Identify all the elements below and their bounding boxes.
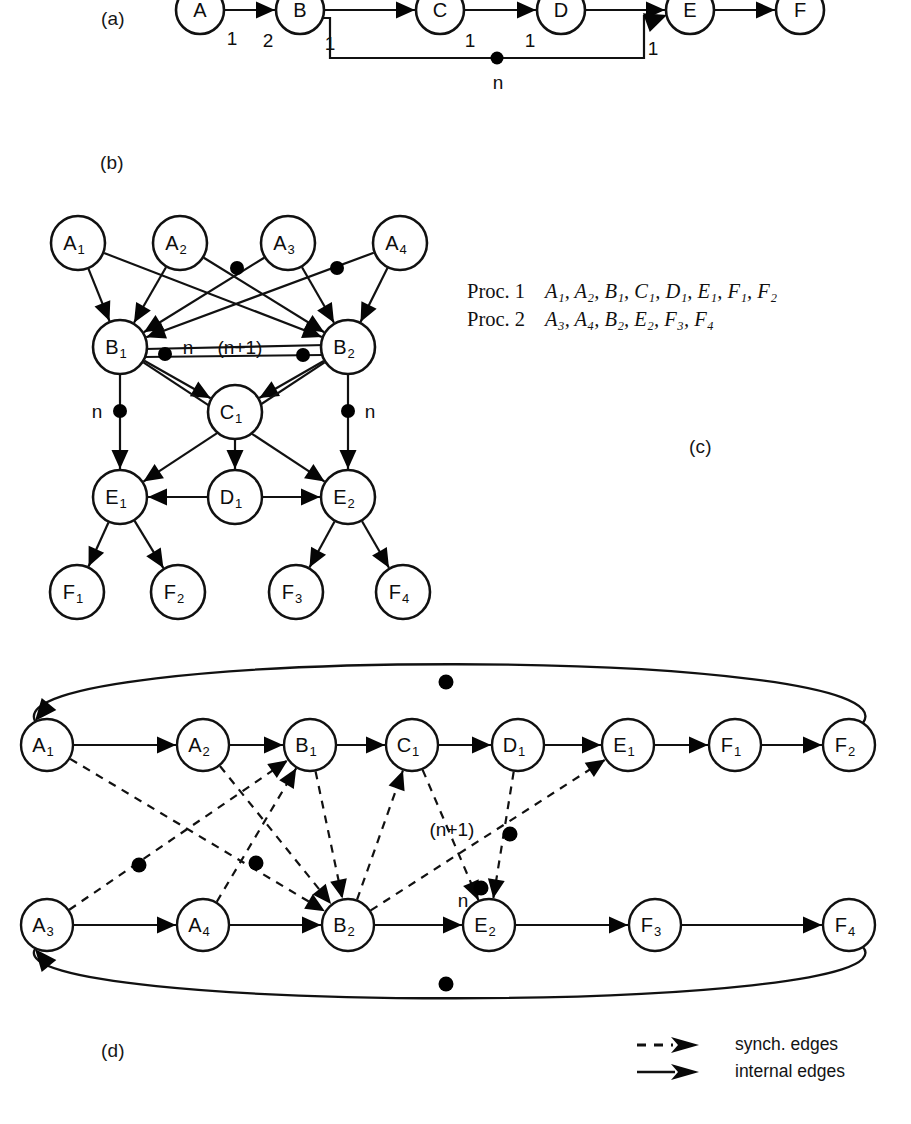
- node-label: A: [193, 0, 207, 21]
- arrow-head: [472, 737, 491, 754]
- internal-edge: [204, 258, 324, 333]
- node-A1: A1: [51, 216, 105, 270]
- node-E: E: [666, 0, 714, 34]
- node-label: B: [293, 0, 306, 21]
- arrow-head: [279, 768, 296, 789]
- arrow-head: [517, 2, 536, 19]
- token-dot: [439, 977, 454, 992]
- arrow-head: [689, 737, 708, 754]
- synch-edge: [357, 770, 403, 899]
- arrow-head: [146, 547, 163, 568]
- node-C1: C1: [386, 719, 438, 771]
- token-dot: [230, 261, 244, 275]
- arrow-head: [256, 2, 275, 19]
- node-F4: F4: [823, 899, 875, 951]
- node-B1: B1: [93, 320, 147, 374]
- arrow-head: [643, 13, 667, 32]
- edge-annotation: n: [493, 72, 504, 93]
- arrow-head: [302, 917, 321, 934]
- arrow-head: [134, 302, 151, 323]
- node-A2: A2: [153, 216, 207, 270]
- arrow-head: [143, 464, 164, 482]
- node-F2: F2: [151, 565, 205, 619]
- node-F3: F3: [269, 565, 323, 619]
- diagram-b: A1A2A3A4B1B2C1D1E1E2F1F2F3F4n(n+1)nn: [50, 216, 430, 619]
- feedback-edge: [34, 664, 866, 723]
- token-dot: [132, 858, 147, 873]
- token-dot: [249, 856, 264, 871]
- arrow-head: [148, 489, 167, 506]
- arrow-head: [259, 381, 280, 398]
- node-A3: A3: [261, 216, 315, 270]
- arrow-head: [264, 737, 283, 754]
- arrow-head: [396, 2, 415, 19]
- edge-annotation: n: [183, 337, 194, 358]
- node-label: C: [433, 0, 447, 21]
- figure-root: (a) (b) (c) (d) Proc. 1A₁, A₂, B₁, C₁, D…: [0, 0, 911, 1124]
- edge-annotation: 1: [525, 30, 536, 51]
- arrow-head: [803, 917, 822, 934]
- diagram-a: ABCDEF121111n: [176, 0, 824, 93]
- arrow-head: [317, 302, 334, 323]
- internal-edge: [144, 258, 264, 333]
- edge-annotation: 1: [325, 33, 336, 54]
- synch-edge: [69, 760, 287, 910]
- feedback-edge: [305, 16, 658, 58]
- arrow-head: [330, 878, 347, 898]
- token-dot: [491, 52, 504, 65]
- edge-annotation: (n+1): [430, 819, 475, 840]
- edge-annotation: n: [458, 890, 469, 911]
- node-E2: E2: [463, 899, 515, 951]
- node-E1: E1: [93, 470, 147, 524]
- arrow-head: [301, 489, 320, 506]
- arrow-head: [309, 547, 326, 568]
- arrow-head: [304, 464, 325, 482]
- arrow-head: [488, 878, 505, 898]
- arrow-head: [340, 450, 357, 469]
- arrow-head: [443, 917, 462, 934]
- node-A4: A4: [177, 899, 229, 951]
- synch-edge: [220, 766, 331, 904]
- arrow-head: [157, 917, 176, 934]
- node-D: D: [537, 0, 585, 34]
- token-dot: [296, 348, 310, 362]
- token-dot: [503, 827, 518, 842]
- arrow-head: [267, 760, 287, 778]
- node-C: C: [416, 0, 464, 34]
- node-D1: D1: [492, 719, 544, 771]
- node-E2: E2: [321, 470, 375, 524]
- token-dot: [341, 404, 355, 418]
- node-label: D: [554, 0, 568, 21]
- synch-edge: [217, 768, 296, 902]
- node-E1: E1: [602, 719, 654, 771]
- arrow-head: [372, 547, 389, 568]
- node-F1: F1: [50, 565, 104, 619]
- feedback-edge: [34, 947, 866, 998]
- node-F1: F1: [709, 719, 761, 771]
- synch-edge: [316, 771, 343, 898]
- token-dot: [474, 881, 489, 896]
- edge-annotation: 2: [263, 30, 274, 51]
- node-F4: F4: [376, 565, 430, 619]
- diagram-d: A1A2B1C1D1E1F1F2A3A4B2E2F3F4(n+1)n: [21, 664, 875, 998]
- node-B2: B2: [321, 320, 375, 374]
- arrow-head: [366, 737, 385, 754]
- node-label: E: [683, 0, 696, 21]
- edge-annotation: n: [92, 401, 103, 422]
- node-A: A: [176, 0, 224, 34]
- arrow-head: [157, 737, 176, 754]
- token-dot: [113, 404, 127, 418]
- edge-annotation: (n+1): [218, 337, 263, 358]
- node-B2: B2: [322, 899, 374, 951]
- arrow-head: [112, 450, 129, 469]
- diagram-canvas: ABCDEF121111nA1A2A3A4B1B2C1D1E1E2F1F2F3F…: [0, 0, 911, 1124]
- token-dot: [439, 675, 454, 690]
- arrow-head: [582, 737, 601, 754]
- arrow-head: [803, 737, 822, 754]
- node-F: F: [776, 0, 824, 34]
- arrow-head: [389, 770, 405, 791]
- token-dot: [158, 347, 172, 361]
- edge-annotation: 1: [227, 28, 238, 49]
- node-B1: B1: [284, 719, 336, 771]
- edge-annotation: 1: [465, 30, 476, 51]
